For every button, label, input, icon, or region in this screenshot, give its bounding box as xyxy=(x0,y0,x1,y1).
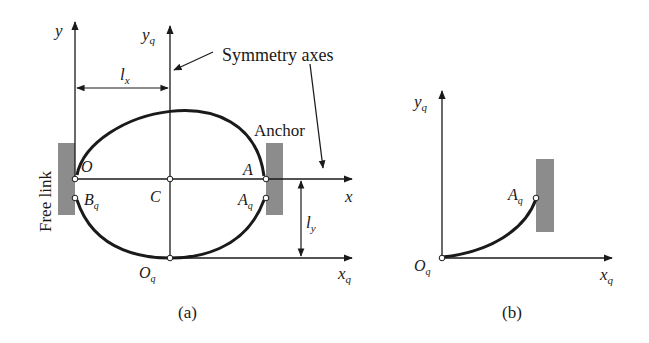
symmetry-pointer-right xyxy=(310,64,323,168)
quarter-arc xyxy=(443,199,536,257)
caption-a: (a) xyxy=(178,303,197,322)
diagram-svg: y yq lx Symmetry axes Anchor Free link O… xyxy=(0,0,649,343)
label-yq: yq xyxy=(140,25,156,46)
figure-canvas: y yq lx Symmetry axes Anchor Free link O… xyxy=(0,0,649,343)
label-aq: Aq xyxy=(237,191,253,211)
label-ly: ly xyxy=(306,213,316,234)
label-o: O xyxy=(81,158,93,175)
label-y: y xyxy=(53,21,63,40)
symmetry-pointer-left xyxy=(174,52,213,70)
label-xq: xq xyxy=(337,264,352,285)
point-aq-marker xyxy=(263,195,269,201)
anchor-label: Anchor xyxy=(254,121,305,140)
point-bq-marker xyxy=(72,195,78,201)
label-c: C xyxy=(150,188,161,205)
label-lx: lx xyxy=(120,65,130,86)
label-xq-b: xq xyxy=(599,265,614,286)
point-a-marker xyxy=(263,176,269,182)
label-aq-b: Aq xyxy=(507,186,523,206)
free-link-label: Free link xyxy=(36,171,55,232)
label-a: A xyxy=(242,161,253,178)
panel-a: y yq lx Symmetry axes Anchor Free link O… xyxy=(36,21,353,322)
point-c-marker xyxy=(167,176,173,182)
label-oq: Oq xyxy=(139,264,156,284)
point-o-marker xyxy=(72,176,78,182)
point-oq-marker xyxy=(167,255,173,261)
label-yq-b: yq xyxy=(412,92,428,113)
panel-b: yq Aq Oq xq (b) xyxy=(412,91,614,322)
point-aq-marker-b xyxy=(533,195,539,201)
label-x: x xyxy=(344,187,353,206)
label-bq: Bq xyxy=(84,191,99,211)
symmetry-axes-label: Symmetry axes xyxy=(222,45,333,65)
caption-b: (b) xyxy=(502,303,522,322)
anchor-block-b xyxy=(536,159,554,232)
label-oq-b: Oq xyxy=(414,257,431,277)
point-oq-marker-b xyxy=(439,255,445,261)
